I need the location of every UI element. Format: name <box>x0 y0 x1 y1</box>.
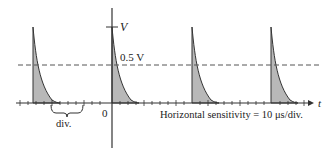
threshold-label: 0.5 V <box>120 51 144 63</box>
division-label: div. <box>56 118 71 129</box>
sensitivity-label: Horizontal sensitivity = 10 μs/div. <box>160 109 303 120</box>
time-axis-arrow <box>308 100 314 106</box>
origin-label: 0 <box>102 107 108 119</box>
waveform-diagram: V t 0 0.5 V div. Horizontal sensitivity … <box>0 0 322 162</box>
waveform-svg: V t 0 0.5 V div. Horizontal sensitivity … <box>0 0 322 162</box>
t-axis-label: t <box>318 97 322 109</box>
v-axis-label: V <box>120 20 129 34</box>
division-brace <box>51 105 83 117</box>
